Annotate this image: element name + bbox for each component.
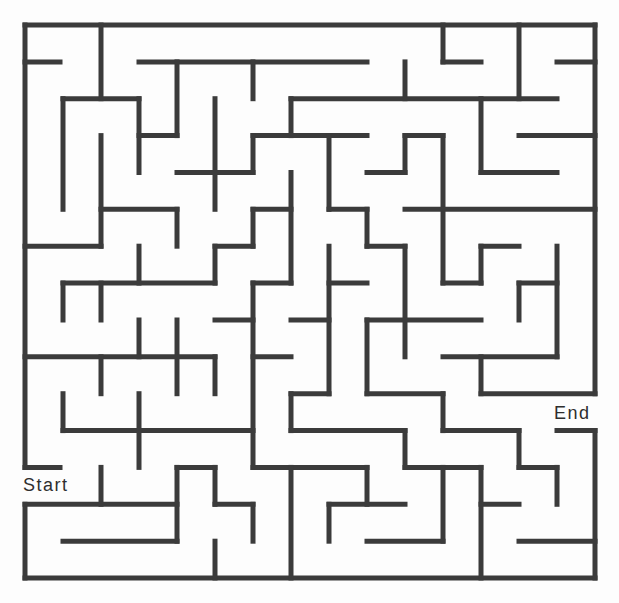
end-label: End (554, 404, 591, 422)
maze-canvas: Start End (0, 0, 619, 603)
maze-walls (0, 0, 619, 603)
start-label: Start (23, 476, 69, 494)
